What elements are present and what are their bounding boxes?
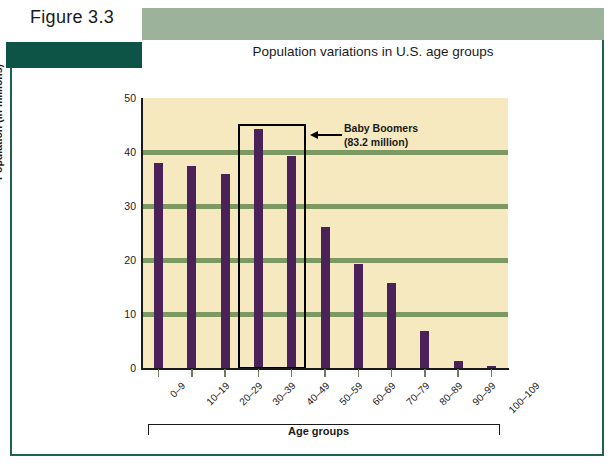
x-tick-mark <box>358 369 360 377</box>
y-tick-label: 50 <box>110 92 136 104</box>
x-tick-mark <box>158 369 160 377</box>
x-tick-mark <box>457 369 459 377</box>
bar <box>154 163 163 368</box>
x-tick-mark <box>191 369 193 377</box>
header-band <box>140 8 604 40</box>
bar <box>221 174 230 368</box>
x-tick-mark <box>291 369 293 377</box>
figure-label: Figure 3.3 <box>30 7 114 28</box>
y-tick-label: 0 <box>110 362 136 374</box>
y-tick-label: 10 <box>110 308 136 320</box>
x-tick-mark <box>391 369 393 377</box>
x-tick-mark <box>224 369 226 377</box>
y-axis-ticks: 01020304050 <box>104 98 136 368</box>
figure-container: Figure 3.3 Population variations in U.S.… <box>0 0 615 466</box>
annotation-line-2: (83.2 million) <box>344 136 418 150</box>
bar <box>420 331 429 368</box>
x-tick-mark <box>324 369 326 377</box>
bar <box>354 264 363 368</box>
bar <box>387 283 396 368</box>
y-tick-label: 20 <box>110 254 136 266</box>
dark-green-block <box>6 42 142 68</box>
baby-boomers-annotation: Baby Boomers (83.2 million) <box>344 122 418 149</box>
x-tick-mark <box>258 369 260 377</box>
annotation-line-1: Baby Boomers <box>344 122 418 136</box>
y-axis-line <box>141 98 143 369</box>
baby-boomers-highlight-box <box>238 124 306 369</box>
chart-title: Population variations in U.S. age groups <box>142 44 604 59</box>
x-tick-mark <box>424 369 426 377</box>
y-tick-label: 40 <box>110 146 136 158</box>
bar <box>454 361 463 368</box>
x-axis-title: Age groups <box>288 425 349 437</box>
bar <box>187 166 196 369</box>
y-tick-label: 30 <box>110 200 136 212</box>
x-tick-mark <box>491 369 493 377</box>
bar <box>321 227 330 368</box>
y-axis-title: Population (in millions) <box>0 64 4 180</box>
left-arrow-icon <box>310 130 342 139</box>
